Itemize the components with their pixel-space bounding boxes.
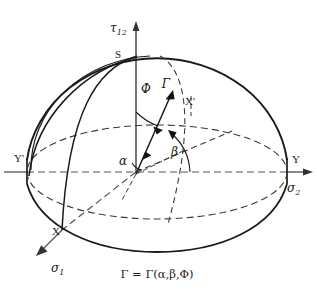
sigma2-subscript: 2 (294, 188, 300, 197)
meridian-s-to-x-solid (62, 56, 137, 230)
angle-beta-label: β (170, 145, 178, 159)
sphere-front-bottom-arc (27, 184, 287, 252)
tau-subscript: 12 (117, 28, 127, 37)
tau12-axis-label: τ12 (110, 21, 127, 37)
gamma-vector-line (136, 97, 170, 174)
angle-beta-arrowhead (168, 130, 177, 140)
angle-phi-label: Φ (141, 82, 151, 96)
figure-root: τ12 σ2 σ1 S Y Y' X X' Γ Φ α β Γ = Γ(α,β,… (0, 0, 317, 296)
gamma-lower-construction-dashed (122, 174, 136, 200)
dome-inner-companion-arc (31, 56, 150, 170)
gamma-vector-arrowhead (166, 90, 175, 100)
point-x-front-label: X (52, 225, 60, 237)
sigma1-subscript: 1 (59, 268, 64, 277)
point-yprime-left-label: Y' (14, 152, 24, 164)
dome-outer-silhouette (27, 58, 287, 160)
radius-to-xprime-dashed (136, 131, 232, 172)
point-y-right-label: Y (292, 153, 300, 165)
tau12-axis-arrowhead (133, 21, 140, 31)
sigma1-axis-label: σ1 (51, 261, 64, 277)
point-xprime-rear-label: X' (185, 95, 195, 107)
sigma2-axis-label: σ2 (287, 181, 300, 197)
sigma1-axis-dashed-inner (62, 172, 136, 230)
angle-phi-arc (136, 112, 158, 126)
point-s-apex-label: S (115, 48, 121, 60)
sigma2-axis-arrowhead (303, 169, 313, 176)
gamma-vector-label: Γ (161, 77, 171, 91)
angle-alpha-label: α (119, 154, 127, 168)
figure-caption: Γ = Γ(α,β,Φ) (120, 267, 193, 281)
hemisphere-diagram: τ12 σ2 σ1 S Y Y' X X' Γ Φ α β Γ = Γ(α,β,… (0, 0, 317, 296)
